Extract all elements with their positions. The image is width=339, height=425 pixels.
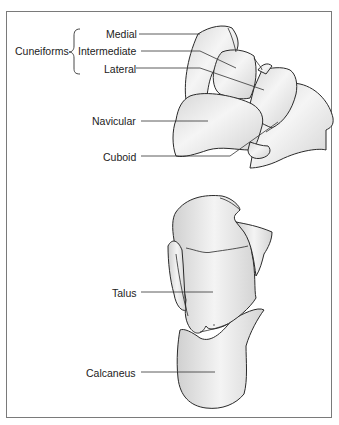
talus-dot xyxy=(213,324,215,326)
hindfoot-bones xyxy=(168,196,272,409)
bones-illustration xyxy=(0,0,339,425)
label-cuboid: Cuboid xyxy=(103,151,136,163)
label-medial: Medial xyxy=(106,28,137,40)
label-cuneiforms: Cuneiforms xyxy=(15,45,69,57)
talus-bone xyxy=(173,196,256,334)
label-talus: Talus xyxy=(112,287,137,299)
midfoot-bones xyxy=(173,26,333,168)
label-navicular: Navicular xyxy=(92,115,136,127)
label-intermediate: Intermediate xyxy=(78,45,136,57)
label-lateral: Lateral xyxy=(104,63,136,75)
label-calcaneus: Calcaneus xyxy=(86,367,136,379)
